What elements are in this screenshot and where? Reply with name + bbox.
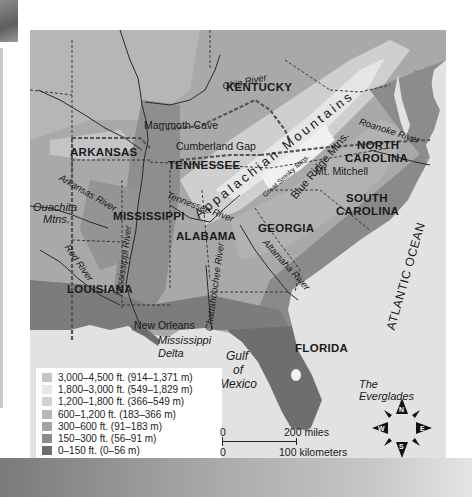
- legend-swatch: [42, 410, 52, 419]
- mountain-label-ouachita-mtns: Mtns.: [43, 214, 70, 225]
- compass-w: W: [378, 425, 385, 432]
- adjacent-photo-edge: [0, 0, 18, 42]
- legend-item: 1,800–3,000 ft. (549–1,829 m): [42, 383, 222, 395]
- state-label-carolina-n: CAROLINA: [345, 153, 408, 165]
- legend-swatch: [42, 422, 52, 431]
- compass-rose: N S W E: [372, 398, 432, 458]
- place-label-cumberland-gap: Cumberland Gap: [176, 141, 256, 152]
- state-label-north: NORTH: [357, 140, 399, 152]
- scale-line: [222, 441, 297, 442]
- state-label-florida: FLORIDA: [295, 343, 348, 355]
- water-label-of: of: [233, 364, 243, 376]
- compass-e: E: [420, 425, 425, 432]
- water-label-mississippi-delta-2: Delta: [158, 348, 184, 359]
- state-label-mississippi: MISSISSIPPI: [113, 211, 185, 223]
- state-label-georgia: GEORGIA: [258, 223, 314, 235]
- state-label-south: SOUTH: [346, 193, 388, 205]
- state-label-tennessee: TENNESSEE: [168, 160, 240, 172]
- scale-bottom-zero: 0: [220, 447, 226, 458]
- legend-item: 150–300 ft. (56–91 m): [42, 432, 222, 444]
- scale-miles-label: 200 miles: [284, 427, 329, 438]
- page-bottom-band: [0, 458, 472, 497]
- elevation-legend: 3,000–4,500 ft. (914–1,371 m) 1,800–3,00…: [36, 368, 222, 458]
- legend-swatch: [42, 434, 52, 443]
- legend-item: 0–150 ft. (0–56 m): [42, 445, 222, 457]
- water-label-the: The: [359, 379, 378, 390]
- adjacent-page-edge: [0, 48, 3, 408]
- legend-swatch: [42, 446, 52, 455]
- place-label-mammoth-cave: Mammoth Cave: [144, 120, 218, 131]
- scale-km-label: 100 kilometers: [279, 447, 347, 458]
- water-label-mississippi-delta-1: Mississippi: [158, 335, 211, 346]
- legend-item: 300–600 ft. (91–183 m): [42, 420, 222, 432]
- legend-item: 1,200–1,800 ft. (366–549 m): [42, 396, 222, 408]
- state-label-arkansas: ARKANSAS: [70, 147, 138, 159]
- scale-top-zero: 0: [220, 427, 226, 438]
- legend-swatch: [42, 373, 52, 382]
- scale-tick: [296, 441, 297, 445]
- water-label-mexico: Mexico: [219, 378, 257, 390]
- legend-item: 600–1,200 ft. (183–366 m): [42, 408, 222, 420]
- state-label-carolina-s: CAROLINA: [336, 206, 399, 218]
- place-label-new-orleans: New Orleans: [134, 320, 195, 331]
- compass-s: S: [399, 443, 404, 450]
- state-label-alabama: ALABAMA: [176, 231, 236, 243]
- scale-tick: [222, 437, 223, 446]
- water-label-gulf: Gulf: [226, 350, 248, 362]
- legend-swatch: [42, 397, 52, 406]
- mountain-label-ouachita: Ouachita: [33, 202, 77, 213]
- legend-swatch: [42, 385, 52, 394]
- compass-n: N: [399, 406, 404, 413]
- scale-bar: 0 200 miles 0 100 kilometers: [222, 429, 322, 459]
- legend-item: 3,000–4,500 ft. (914–1,371 m): [42, 371, 222, 383]
